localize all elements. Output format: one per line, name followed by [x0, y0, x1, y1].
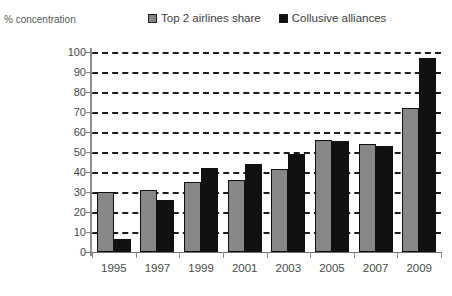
y-axis-tick-label: 60 [74, 127, 86, 138]
x-axis-tick-mark [354, 252, 355, 258]
bar-group [184, 40, 218, 252]
y-axis-tick-mark [86, 92, 93, 93]
bar-group [140, 40, 174, 252]
bar [97, 192, 114, 252]
bar-group [402, 40, 436, 252]
bar [201, 168, 218, 252]
y-axis-tick-labels: 0102030405060708090100 [52, 40, 86, 266]
chart-header: % concentration Top 2 airlines share Col… [0, 0, 452, 40]
x-axis-tick-label: 2007 [363, 262, 389, 274]
chart-plot: 0102030405060708090100 19951997199920012… [0, 40, 452, 296]
y-axis-tick-label: 80 [74, 87, 86, 98]
x-axis-ticks [92, 252, 441, 258]
x-axis-tick-label: 2001 [232, 262, 258, 274]
x-axis-tick-mark [397, 252, 398, 258]
x-axis-tick-mark [267, 252, 268, 258]
x-axis-tick-label: 2009 [406, 262, 432, 274]
bar [402, 108, 419, 252]
bar-group [359, 40, 393, 252]
bar-group [97, 40, 131, 252]
bar [359, 144, 376, 252]
y-axis-tick-mark [86, 152, 93, 153]
x-axis-tick-label: 1997 [145, 262, 171, 274]
x-axis-tick-label: 1999 [188, 262, 214, 274]
bar [315, 140, 332, 252]
y-axis-tick-label: 20 [74, 207, 86, 218]
x-axis-tick-mark [223, 252, 224, 258]
y-axis-tick-mark [86, 192, 93, 193]
y-axis-tick-label: 40 [74, 167, 86, 178]
y-axis-tick-mark [86, 52, 93, 53]
y-axis-tick-label: 100 [68, 47, 86, 58]
bar [228, 180, 245, 252]
bar [114, 239, 131, 252]
bar-group [271, 40, 305, 252]
y-axis-tick-label: 50 [74, 147, 86, 158]
bar [288, 154, 305, 252]
y-axis-tick-mark [86, 212, 93, 213]
x-axis-tick-mark [136, 252, 137, 258]
bar-series-layer [92, 40, 441, 252]
y-axis-tick-mark [86, 172, 93, 173]
y-axis-tick-mark [86, 252, 93, 253]
bar-group [315, 40, 349, 252]
bar [419, 58, 436, 252]
x-axis-tick-label: 2005 [319, 262, 345, 274]
black-square-icon [279, 14, 288, 23]
x-axis-tick-label: 2003 [276, 262, 302, 274]
x-axis-tick-mark [179, 252, 180, 258]
bar [184, 182, 201, 252]
bar [157, 200, 174, 252]
bar-group [228, 40, 262, 252]
y-axis-tick-label: 70 [74, 107, 86, 118]
y-axis-tick-mark [86, 112, 93, 113]
y-axis-tick-label: 30 [74, 187, 86, 198]
legend-entry-collusive-alliances: Collusive alliances [279, 12, 387, 24]
legend-label: Collusive alliances [292, 12, 387, 24]
y-axis-tick-mark [86, 232, 93, 233]
y-axis-caption: % concentration [4, 14, 76, 25]
bar [376, 146, 393, 252]
bar [245, 164, 262, 252]
x-axis-tick-mark [441, 252, 442, 258]
y-axis-tick-label: 90 [74, 67, 86, 78]
y-axis-tick-label: 10 [74, 227, 86, 238]
y-axis-tick-mark [86, 72, 93, 73]
bar [271, 169, 288, 252]
chart-legend: Top 2 airlines share Collusive alliances [148, 12, 386, 24]
legend-entry-top-2-airlines-share: Top 2 airlines share [148, 12, 261, 24]
legend-label: Top 2 airlines share [161, 12, 261, 24]
grey-square-icon [148, 14, 157, 23]
bar [140, 190, 157, 252]
y-axis-tick-mark [86, 132, 93, 133]
x-axis-tick-labels: 19951997199920012003200520072009 [92, 262, 441, 282]
x-axis-tick-mark [310, 252, 311, 258]
bar [332, 141, 349, 252]
x-axis-tick-label: 1995 [101, 262, 127, 274]
